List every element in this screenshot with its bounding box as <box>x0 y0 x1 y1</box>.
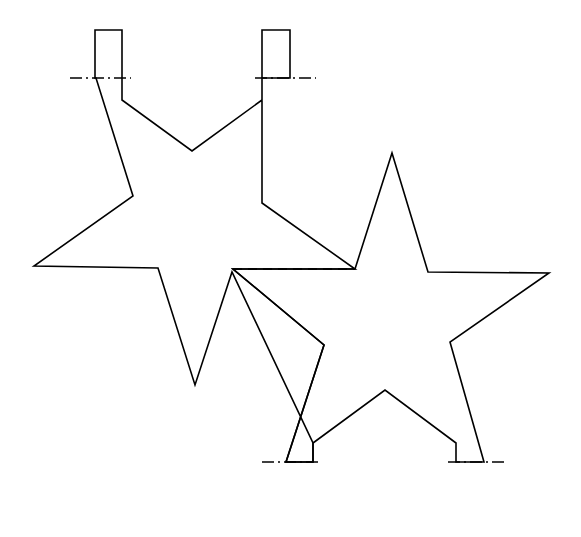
lower-right-star-outline <box>233 153 549 462</box>
drawing-svg <box>0 0 581 537</box>
technical-drawing-canvas <box>0 0 581 537</box>
